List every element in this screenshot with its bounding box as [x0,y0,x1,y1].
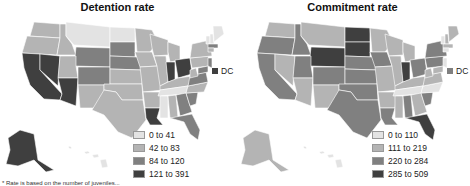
us-choropleth-map [0,0,235,186]
state-sd [345,42,370,57]
legend-label: 111 to 219 [388,143,427,153]
legend-label: 0 to 41 [149,130,175,140]
state-hi [303,146,307,149]
state-sd [110,42,135,57]
map-legend: 0 to 110 111 to 219 220 to 284 285 to 50… [372,128,428,180]
state-me [213,26,224,42]
dc-label: DC [221,66,233,76]
state-nd [110,27,135,42]
legend-label: 84 to 120 [149,156,184,166]
state-or [257,36,295,55]
state-az [293,78,313,106]
legend-item: 220 to 284 [372,154,428,167]
legend-swatch [133,157,145,165]
state-ut [58,56,78,78]
legend-swatch [133,170,145,178]
state-ct [443,48,449,52]
dc-inset: DC [447,66,468,76]
state-co [78,67,110,85]
state-ma [443,44,453,48]
legend-swatch [133,131,145,139]
state-hi-4 [335,159,343,168]
state-nd [345,27,370,42]
legend-label: 285 to 509 [388,169,428,179]
state-ct [208,48,214,52]
legend-item: 42 to 83 [133,141,189,154]
dc-swatch [447,68,453,74]
legend-item: 84 to 120 [133,154,189,167]
legend-swatch [133,144,145,152]
state-hi-3 [92,154,99,158]
legend-item: 0 to 110 [372,128,428,141]
state-vt [206,36,210,44]
state-mt [301,22,345,47]
state-ak [6,130,54,172]
state-ak [241,130,289,172]
state-or [22,36,60,55]
state-mi [403,42,415,62]
state-mt [66,22,110,47]
legend-swatch [372,144,384,152]
state-ks [345,69,377,84]
state-wv [190,68,198,78]
state-ut [293,56,313,78]
legend-item: 121 to 391 [133,167,189,180]
state-wy [74,47,110,67]
state-ms [395,96,403,118]
map-legend: 0 to 41 42 to 83 84 to 120 121 to 391 [133,128,189,180]
state-wa [265,22,295,38]
state-wa [30,22,60,38]
state-vt [441,36,445,44]
state-mi [168,42,180,62]
legend-item: 111 to 219 [372,141,428,154]
state-ks [110,69,142,84]
state-ms [160,96,168,118]
state-oh [410,58,427,78]
legend-item: 0 to 41 [133,128,189,141]
dc-inset: DC [212,66,233,76]
legend-label: 0 to 110 [388,130,418,140]
legend-swatch [372,170,384,178]
state-wv [425,68,433,78]
state-hi-3 [327,154,334,158]
footnote: * Rate is based on the number of juvenil… [2,180,120,186]
state-hi-2 [84,151,90,154]
legend-swatch [372,131,384,139]
state-me [448,26,459,42]
state-co [313,67,345,85]
state-hi [68,146,72,149]
legend-label: 42 to 83 [149,143,180,153]
state-az [58,78,78,106]
state-hi-2 [319,151,325,154]
commitment-rate-panel: Commitment rate [235,0,470,186]
legend-swatch [372,157,384,165]
state-ma [208,44,218,48]
us-choropleth-map [235,0,470,186]
legend-label: 220 to 284 [388,156,428,166]
detention-rate-panel: Detention rate [0,0,235,186]
state-wi [385,34,403,56]
dc-label: DC [456,66,468,76]
legend-label: 121 to 391 [149,169,189,179]
state-oh [175,58,192,78]
state-hi-4 [100,159,108,168]
legend-item: 285 to 509 [372,167,428,180]
state-wi [150,34,168,56]
dc-swatch [212,68,218,74]
state-wy [309,47,345,67]
